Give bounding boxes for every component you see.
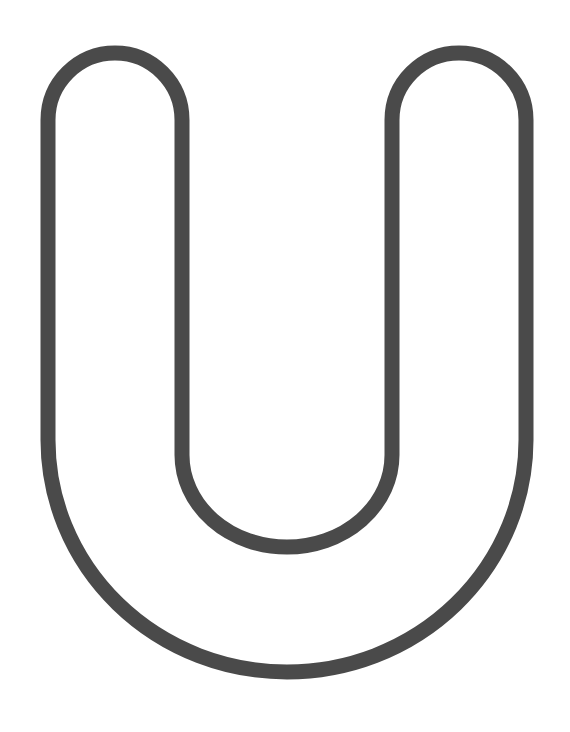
letter-u-outline — [0, 0, 570, 732]
letter-u-shape — [48, 53, 526, 672]
